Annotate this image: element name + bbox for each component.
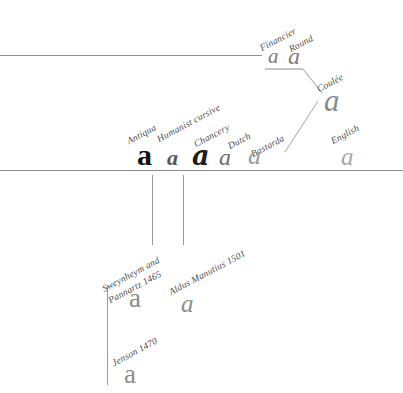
node-aldus-manutius-label: Aldus Manutius 1501 xyxy=(167,248,247,297)
coulee-to-bastarda xyxy=(285,101,318,152)
node-coulee-glyph: a xyxy=(324,85,340,116)
node-aldus-manutius-glyph: a xyxy=(181,291,194,316)
node-sweynheym-pannartz-glyph: a xyxy=(129,285,141,312)
node-chancery-glyph: a xyxy=(192,142,210,169)
node-bastarda-glyph: a xyxy=(248,143,261,169)
node-financier-glyph: a xyxy=(268,46,279,67)
stem-jenson xyxy=(107,286,108,385)
node-humanist-cursive-glyph: a xyxy=(167,147,178,169)
node-round-glyph: a xyxy=(288,44,300,68)
connector-lines xyxy=(0,0,403,393)
stem-aldus xyxy=(183,175,184,245)
stem-sweynheym xyxy=(152,175,153,245)
node-dutch-glyph: a xyxy=(219,145,231,169)
node-jenson-glyph: a xyxy=(124,361,136,388)
node-antiqua-glyph: a xyxy=(137,140,152,170)
typeface-genealogy-diagram: Financier a Round a Coulée a Antiqua a H… xyxy=(0,0,403,393)
node-english-glyph: a xyxy=(341,144,354,169)
upper-rule xyxy=(0,55,262,56)
